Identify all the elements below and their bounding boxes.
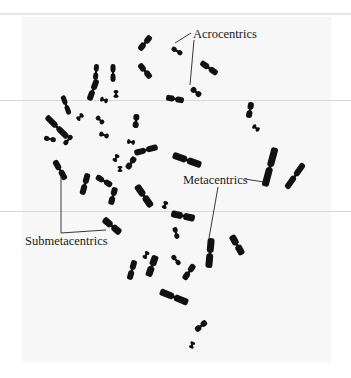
chromosome (228, 234, 245, 257)
chromosome (137, 34, 153, 52)
leader-line-acrocentrics (190, 40, 194, 85)
chromosome (125, 156, 138, 171)
chromosome (251, 124, 260, 133)
chromosome (44, 114, 69, 139)
chromosome (137, 62, 153, 80)
chromosome (98, 131, 109, 139)
chromosome (44, 135, 57, 142)
leader-line-acrocentrics (175, 33, 191, 43)
chromosome (166, 94, 185, 103)
chromosome (99, 96, 108, 103)
chromosome (75, 112, 84, 121)
leader-line-metacentrics (245, 179, 264, 182)
label-metacentrics: Metacentrics (183, 173, 248, 187)
chromosome (181, 263, 196, 281)
chromosome (172, 227, 180, 240)
chromosome (134, 144, 159, 156)
chromosome (52, 159, 68, 181)
chromosome (171, 210, 196, 222)
chromosome (127, 260, 138, 281)
chromosome (171, 46, 184, 56)
chromosome (142, 250, 150, 259)
chromosome (101, 216, 122, 236)
chromosome (189, 86, 202, 98)
chromosome (86, 79, 99, 102)
karyotype-figure: Acrocentrics Metacentrics Submetacentric… (0, 0, 351, 378)
chromosome (111, 64, 116, 82)
chromosome (261, 147, 278, 187)
chromosome-spread (44, 34, 306, 349)
label-submetacentrics: Submetacentrics (25, 234, 108, 248)
figure-labels: Acrocentrics Metacentrics Submetacentric… (25, 27, 257, 248)
chromosome (194, 319, 209, 333)
chromosome (172, 152, 203, 169)
chromosome (199, 60, 219, 76)
chromosome (60, 95, 72, 116)
chromosome (108, 187, 118, 206)
chromosome (112, 153, 120, 162)
chromosome (161, 200, 168, 209)
chromosome (95, 174, 114, 188)
chromosome (118, 166, 123, 172)
chromosome (159, 288, 189, 306)
chromosome (205, 238, 215, 268)
chromosome (93, 64, 99, 80)
chromosome (79, 173, 90, 196)
chromosome (188, 341, 195, 349)
chromosome (95, 115, 106, 126)
label-acrocentrics: Acrocentrics (193, 27, 257, 41)
chromosome (170, 254, 182, 266)
chromosome (114, 90, 119, 98)
chromosome (127, 139, 136, 145)
leader-line-metacentrics (209, 187, 218, 238)
chromosome (284, 162, 306, 190)
chromosome (134, 183, 155, 208)
chromosome (246, 102, 255, 119)
chromosome (132, 114, 139, 128)
